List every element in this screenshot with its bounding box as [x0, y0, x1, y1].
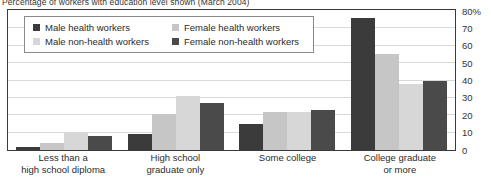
- legend-swatch-icon: [33, 38, 40, 45]
- x-axis-label-line: College graduate: [344, 152, 456, 164]
- legend-item: Female non-health workers: [172, 36, 305, 47]
- legend-item: Female health workers: [172, 22, 305, 33]
- bar: [351, 18, 375, 150]
- bar: [64, 133, 88, 150]
- y-axis-tick-label: 30: [462, 92, 473, 103]
- x-axis-category-label: High schoolgraduate only: [119, 152, 231, 175]
- legend-item: Male health workers: [33, 22, 166, 33]
- legend-swatch-icon: [172, 38, 179, 45]
- legend-label: Male non-health workers: [45, 36, 149, 47]
- x-axis-label-line: or more: [344, 164, 456, 176]
- x-axis-label-line: Less than a: [7, 152, 119, 164]
- legend-label: Female health workers: [184, 22, 280, 33]
- bar: [16, 147, 40, 150]
- y-axis-tick-label: 0: [462, 144, 467, 155]
- x-axis-label-line: Some college: [232, 152, 344, 164]
- bar: [152, 114, 176, 150]
- bar: [375, 54, 399, 150]
- x-axis-label-line: graduate only: [119, 164, 231, 176]
- legend-label: Male health workers: [45, 22, 130, 33]
- bar: [287, 112, 311, 150]
- bar: [88, 136, 112, 150]
- x-axis-category-label: College graduateor more: [344, 152, 456, 175]
- x-axis: Less than ahigh school diplomaHigh schoo…: [7, 152, 456, 175]
- bar-group: [343, 10, 455, 150]
- bar: [423, 81, 447, 151]
- legend-label: Female non-health workers: [184, 36, 299, 47]
- y-axis-tick-label: 70: [462, 22, 473, 33]
- x-axis-label-line: high school diploma: [7, 164, 119, 176]
- y-axis-tick-label: 80%: [462, 5, 481, 16]
- bar: [263, 112, 287, 150]
- x-axis-label-line: High school: [119, 152, 231, 164]
- legend-swatch-icon: [33, 24, 40, 31]
- bar: [200, 103, 224, 150]
- legend-swatch-icon: [172, 24, 179, 31]
- y-axis-tick-label: 20: [462, 109, 473, 120]
- x-axis-category-label: Some college: [232, 152, 344, 175]
- chart-figure: Percentage of workers with education lev…: [0, 0, 491, 179]
- bar: [239, 124, 263, 150]
- y-axis-tick-label: 10: [462, 127, 473, 138]
- chart-legend: Male health workersFemale health workers…: [24, 16, 314, 53]
- legend-item: Male non-health workers: [33, 36, 166, 47]
- y-axis-tick-label: 40: [462, 75, 473, 86]
- y-axis-tick-label: 60: [462, 40, 473, 51]
- bar: [128, 134, 152, 150]
- x-axis-category-label: Less than ahigh school diploma: [7, 152, 119, 175]
- bar: [40, 143, 64, 150]
- y-axis-tick-label: 50: [462, 57, 473, 68]
- bar: [399, 84, 423, 150]
- chart-title: Percentage of workers with education lev…: [2, 0, 250, 7]
- y-axis: 80%706050403020100: [462, 0, 491, 179]
- bar: [311, 110, 335, 150]
- bar: [176, 96, 200, 150]
